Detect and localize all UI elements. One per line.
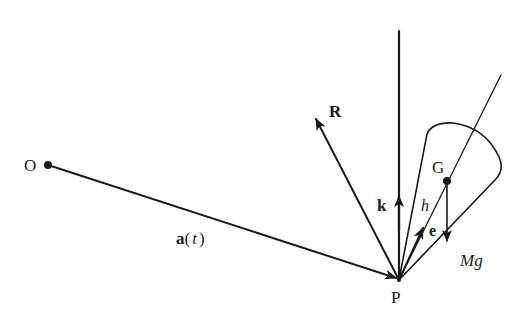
e-unit-vector-label: e — [429, 222, 436, 239]
center-of-mass-dot — [443, 177, 451, 185]
distance-h-label: h — [421, 197, 429, 214]
symmetry-axis-line — [399, 75, 501, 280]
position-vector-time: t — [192, 229, 198, 248]
position-vector-label: a(t) — [176, 229, 205, 248]
position-vector-arrow — [48, 165, 396, 278]
k-unit-vector-label: k — [377, 196, 387, 215]
point-o-label: O — [24, 156, 36, 175]
point-p-dot — [397, 278, 401, 282]
point-p-label: P — [391, 288, 400, 307]
point-o-dot — [44, 161, 52, 169]
weight-vector-label: Mg — [459, 251, 483, 270]
position-vector-close-paren: ) — [199, 229, 205, 248]
e-unit-vector-arrow — [399, 228, 423, 280]
top-cone-outline — [399, 123, 501, 280]
spinning-top-diagram: O P G a(t) R k e h Mg — [0, 0, 524, 317]
point-g-label: G — [432, 158, 444, 177]
position-vector-open-paren: ( — [185, 229, 191, 248]
reaction-vector-label: R — [329, 102, 342, 121]
